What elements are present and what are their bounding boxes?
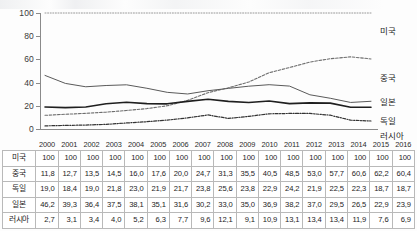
table-col-header: 2013 <box>325 139 347 151</box>
table-col-header: 2012 <box>303 139 325 151</box>
table-cell: 18,7 <box>392 182 414 198</box>
table-cell: 48,5 <box>281 166 303 182</box>
table-cell: 35,1 <box>147 197 169 213</box>
table-cell: 31,3 <box>214 166 236 182</box>
table-cell: 60,6 <box>347 166 369 182</box>
table-cell: 29,5 <box>325 197 347 213</box>
table-col-header: 2015 <box>370 139 392 151</box>
series-lines <box>41 8 378 139</box>
table-cell: 16,0 <box>125 166 147 182</box>
table-cell: 100 <box>281 151 303 167</box>
table-cell: 100 <box>125 151 147 167</box>
table-cell: 24,2 <box>281 182 303 198</box>
line-chart: 100 80 60 40 20 0 미국 중국 일본 독일 러시아 <box>0 8 417 139</box>
table-row-header: 러시아 <box>3 213 36 229</box>
table-cell: 36,9 <box>258 197 280 213</box>
table-cell: 46,2 <box>36 197 58 213</box>
table-cell: 19,0 <box>80 182 102 198</box>
table-cell: 13,4 <box>303 213 325 229</box>
table-cell: 62,2 <box>370 166 392 182</box>
table-cell: 14,5 <box>103 166 125 182</box>
table-cell: 37,0 <box>303 197 325 213</box>
table-cell: 37,5 <box>103 197 125 213</box>
table-cell: 33,0 <box>214 197 236 213</box>
table-row-header: 미국 <box>3 151 36 167</box>
table-cell: 36,4 <box>80 197 102 213</box>
table-cell: 19,0 <box>36 182 58 198</box>
table-cell: 22,5 <box>325 182 347 198</box>
table-col-header: 2005 <box>147 139 169 151</box>
table-cell: 100 <box>103 151 125 167</box>
table-cell: 100 <box>258 151 280 167</box>
table-cell: 100 <box>147 151 169 167</box>
table-cell: 11,8 <box>36 166 58 182</box>
chart-page: 100 80 60 40 20 0 미국 중국 일본 독일 러시아 <box>0 0 417 231</box>
table-row: 일본46,239,336,437,538,135,131,630,233,035… <box>3 197 415 213</box>
table-cell: 100 <box>80 151 102 167</box>
y-tick-label: 40 <box>24 78 34 88</box>
table-col-header: 2009 <box>236 139 258 151</box>
table-cell: 23,0 <box>125 182 147 198</box>
table-col-header: 2002 <box>80 139 102 151</box>
table-cell: 3,1 <box>58 213 80 229</box>
table-header-row: 2000200120022003200420052006200720082009… <box>3 139 415 151</box>
table-cell: 22,9 <box>370 197 392 213</box>
table-cell: 4,0 <box>103 213 125 229</box>
series-line-일본 <box>45 75 371 102</box>
table-col-header: 2014 <box>347 139 369 151</box>
table-col-header: 2006 <box>169 139 191 151</box>
table-col-header: 2001 <box>58 139 80 151</box>
table-cell: 100 <box>325 151 347 167</box>
table-cell: 25,6 <box>214 182 236 198</box>
table-cell: 12,7 <box>58 166 80 182</box>
table-cell: 5,2 <box>125 213 147 229</box>
table-col-header: 2008 <box>214 139 236 151</box>
table-cell: 100 <box>392 151 414 167</box>
table-cell: 57,7 <box>325 166 347 182</box>
table-cell: 13,1 <box>281 213 303 229</box>
table-cell: 23,8 <box>192 182 214 198</box>
table-cell: 100 <box>236 151 258 167</box>
table-cell: 30,2 <box>192 197 214 213</box>
data-table-wrapper: 2000200120022003200420052006200720082009… <box>2 139 415 229</box>
table-cell: 23,8 <box>236 182 258 198</box>
table-cell: 35,5 <box>236 166 258 182</box>
table-col-header: 2016 <box>392 139 414 151</box>
table-row: 중국11,812,713,514,516,017,620,024,731,335… <box>3 166 415 182</box>
table-row: 독일19,018,419,021,823,021,921,723,825,623… <box>3 182 415 198</box>
table-cell: 100 <box>303 151 325 167</box>
table-cell: 7,7 <box>169 213 191 229</box>
table-row: 미국10010010010010010010010010010010010010… <box>3 151 415 167</box>
table-cell: 100 <box>169 151 191 167</box>
y-tick-label: 20 <box>24 101 34 111</box>
table-row: 러시아2,73,13,44,05,26,37,79,612,19,110,913… <box>3 213 415 229</box>
table-cell: 35,0 <box>236 197 258 213</box>
table-col-header: 2007 <box>192 139 214 151</box>
table-cell: 38,2 <box>281 197 303 213</box>
table-cell: 22,9 <box>258 182 280 198</box>
table-cell: 13,4 <box>325 213 347 229</box>
table-cell: 100 <box>36 151 58 167</box>
legend-label-japan: 일본 <box>380 95 396 107</box>
table-body: 미국10010010010010010010010010010010010010… <box>3 151 415 229</box>
table-cell: 18,4 <box>58 182 80 198</box>
table-cell: 23,9 <box>392 197 414 213</box>
table-header: 2000200120022003200420052006200720082009… <box>3 139 415 151</box>
table-cell: 22,3 <box>347 182 369 198</box>
table-cell: 9,1 <box>236 213 258 229</box>
table-cell: 100 <box>370 151 392 167</box>
table-cell: 21,9 <box>303 182 325 198</box>
table-cell: 26,5 <box>347 197 369 213</box>
y-tick-label: 80 <box>24 31 34 41</box>
table-cell: 17,6 <box>147 166 169 182</box>
table-col-header: 2000 <box>36 139 58 151</box>
table-cell: 13,5 <box>80 166 102 182</box>
table-cell: 20,0 <box>169 166 191 182</box>
table-corner-cell <box>3 139 36 151</box>
table-cell: 38,1 <box>125 197 147 213</box>
table-cell: 3,4 <box>80 213 102 229</box>
data-table: 2000200120022003200420052006200720082009… <box>2 139 415 229</box>
y-tick-label: 60 <box>24 54 34 64</box>
table-col-header: 2011 <box>281 139 303 151</box>
table-cell: 39,3 <box>58 197 80 213</box>
